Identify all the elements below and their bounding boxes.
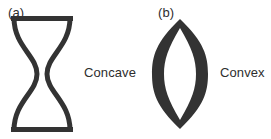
panel-convex: (b) Convex <box>140 0 271 139</box>
concave-top-surface-bar <box>11 16 73 21</box>
biconvex-lens-icon <box>146 14 214 134</box>
caption-concave: Concave <box>84 66 136 79</box>
concave-left-arc <box>14 18 37 130</box>
biconcave-lens-icon <box>6 16 80 132</box>
concave-right-arc <box>47 18 70 130</box>
concave-bottom-surface-bar <box>11 127 73 132</box>
lens-comparison-figure: (a) Concave (b) Convex <box>0 0 271 139</box>
caption-convex: Convex <box>220 66 265 79</box>
panel-concave: (a) Concave <box>0 0 140 139</box>
convex-lens-body <box>152 19 208 129</box>
